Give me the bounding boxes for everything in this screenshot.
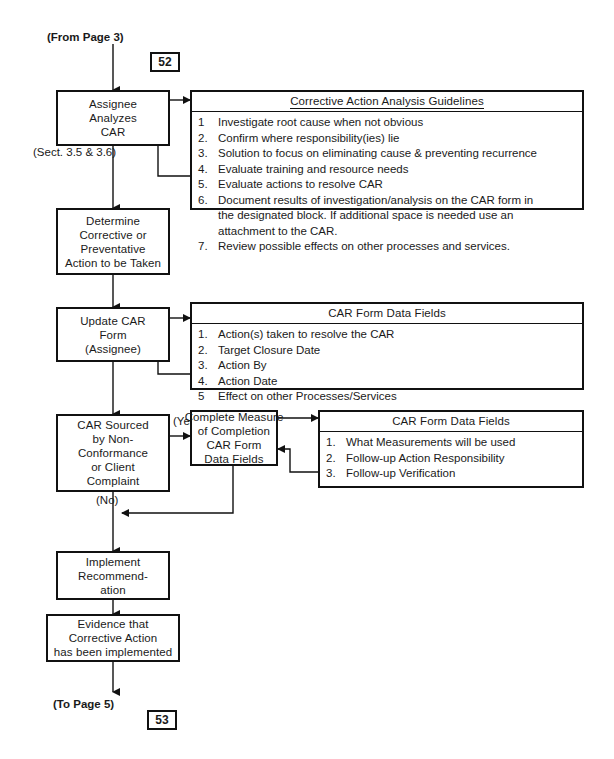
branch-label-no: (No) — [96, 493, 118, 507]
panel-title: CAR Form Data Fields — [320, 412, 582, 432]
flowchart-canvas: (From Page 3) 52 Assignee Analyzes CAR (… — [0, 0, 614, 759]
node-line: or Client — [91, 460, 135, 474]
node-line: Implement — [86, 555, 141, 569]
list-item-number: 2. — [198, 343, 218, 359]
node-line: (Assignee) — [85, 342, 141, 356]
list-item-text: Target Closure Date — [218, 343, 578, 359]
node-line: Determine — [86, 214, 140, 228]
node-line: CAR — [101, 125, 126, 139]
panel-car-form-data-fields-1: CAR Form Data Fields 1.Action(s) taken t… — [190, 302, 584, 390]
node-line: Conformance — [78, 446, 148, 460]
node-line: CAR Sourced — [77, 418, 148, 432]
list-item: 1Investigate root cause when not obvious — [192, 115, 582, 131]
list-item-text: Confirm where responsibility(ies) lie — [218, 131, 578, 147]
exit-label: (To Page 5) — [53, 697, 114, 711]
list-item-text: Evaluate training and resource needs — [218, 162, 578, 178]
list-item-number: 5 — [198, 389, 218, 405]
node-line: Evidence that — [78, 617, 149, 631]
node-line: Complaint — [87, 474, 140, 488]
list-item: 2.Follow-up Action Responsibility — [320, 451, 582, 467]
list-item: 4.Evaluate training and resource needs — [192, 162, 582, 178]
panel-title: CAR Form Data Fields — [192, 304, 582, 324]
list-item: 4.Action Date — [192, 374, 582, 390]
list-item-text: Action By — [218, 358, 578, 374]
list-item-number: 2. — [326, 451, 346, 467]
list-item: 3.Follow-up Verification — [320, 466, 582, 482]
node-assignee-analyzes-car[interactable]: Assignee Analyzes CAR — [56, 90, 170, 146]
node-determine-action[interactable]: Determine Corrective or Preventative Act… — [56, 208, 170, 275]
list-item-text: Effect on other Processes/Services — [218, 389, 578, 405]
page-marker-in: 52 — [150, 52, 180, 72]
list-item-number: 1. — [326, 435, 346, 451]
list-item-number: 3. — [326, 466, 346, 482]
entry-label: (From Page 3) — [47, 30, 124, 44]
node-update-car-form[interactable]: Update CAR Form (Assignee) — [56, 307, 170, 362]
panel-body: 1Investigate root cause when not obvious… — [192, 112, 582, 258]
list-item: 5Effect on other Processes/Services — [192, 389, 582, 405]
list-item-text: attachment to the CAR. — [218, 224, 578, 240]
list-item-number: 2. — [198, 131, 218, 147]
node-line: has been implemented — [54, 645, 172, 659]
node-line: ation — [100, 583, 125, 597]
assignee-section-caption: (Sect. 3.5 & 3.6) — [33, 145, 116, 159]
node-line: Data Fields — [204, 452, 263, 466]
list-item-continuation: the designated block. If additional spac… — [192, 208, 582, 224]
node-line: Preventative — [80, 242, 145, 256]
list-item-number: 5. — [198, 177, 218, 193]
list-item: 1.Action(s) taken to resolve the CAR — [192, 327, 582, 343]
panel-car-form-data-fields-2: CAR Form Data Fields 1.What Measurements… — [318, 410, 584, 488]
node-line: Action to be Taken — [65, 256, 161, 270]
node-line: CAR Form — [206, 438, 261, 452]
node-line: Assignee — [89, 97, 137, 111]
list-item-text: Follow-up Verification — [346, 466, 578, 482]
panel-body: 1.Action(s) taken to resolve the CAR 2.T… — [192, 324, 582, 408]
list-item-text: the designated block. If additional spac… — [218, 208, 578, 224]
node-complete-measure-of-completion[interactable]: Complete Measure of Completion CAR Form … — [190, 410, 278, 466]
node-line: Corrective Action — [69, 631, 158, 645]
list-item: 7.Review possible effects on other proce… — [192, 239, 582, 255]
list-item: 5.Evaluate actions to resolve CAR — [192, 177, 582, 193]
list-item-text: Action(s) taken to resolve the CAR — [218, 327, 578, 343]
list-item-text: Evaluate actions to resolve CAR — [218, 177, 578, 193]
list-item: 1.What Measurements will be used — [320, 435, 582, 451]
node-line: Analyzes — [89, 111, 136, 125]
list-item-text: Investigate root cause when not obvious — [218, 115, 578, 131]
list-item: 2.Confirm where responsibility(ies) lie — [192, 131, 582, 147]
list-item: 3.Action By — [192, 358, 582, 374]
list-item-text: Follow-up Action Responsibility — [346, 451, 578, 467]
node-line: Complete Measure — [185, 410, 284, 424]
list-item-number: 4. — [198, 162, 218, 178]
panel-body: 1.What Measurements will be used 2.Follo… — [320, 432, 582, 485]
panel-corrective-action-analysis-guidelines: Corrective Action Analysis Guidelines 1I… — [190, 90, 584, 210]
list-item-text: Document results of investigation/analys… — [218, 193, 578, 209]
node-line: Update CAR — [80, 314, 146, 328]
node-line: Recommend- — [78, 569, 148, 583]
list-item-text: What Measurements will be used — [346, 435, 578, 451]
list-item-text: Action Date — [218, 374, 578, 390]
list-item-number: 6. — [198, 193, 218, 209]
list-item-text: Solution to focus on eliminating cause &… — [218, 146, 578, 162]
list-item-number: 3. — [198, 146, 218, 162]
node-line: of Completion — [198, 424, 270, 438]
node-line: Form — [99, 328, 126, 342]
list-item: 3.Solution to focus on eliminating cause… — [192, 146, 582, 162]
list-item-number: 4. — [198, 374, 218, 390]
list-item: 2.Target Closure Date — [192, 343, 582, 359]
list-item-number: 1. — [198, 327, 218, 343]
panel-title-text: CAR Form Data Fields — [328, 307, 446, 319]
page-marker-out: 53 — [147, 710, 177, 730]
panel-title-text: Corrective Action Analysis Guidelines — [290, 95, 484, 109]
list-item: 6.Document results of investigation/anal… — [192, 193, 582, 209]
panel-title: Corrective Action Analysis Guidelines — [192, 92, 582, 112]
node-car-sourced[interactable]: CAR Sourced by Non- Conformance or Clien… — [56, 414, 170, 492]
list-item-text: Review possible effects on other process… — [218, 239, 578, 255]
node-implement-recommendation[interactable]: Implement Recommend- ation — [56, 551, 170, 600]
panel-title-text: CAR Form Data Fields — [392, 415, 510, 427]
node-evidence-implemented[interactable]: Evidence that Corrective Action has been… — [46, 614, 180, 662]
node-line: by Non- — [93, 432, 134, 446]
list-item-number: 7. — [198, 239, 218, 255]
node-line: Corrective or — [79, 228, 146, 242]
list-item-continuation: attachment to the CAR. — [192, 224, 582, 240]
list-item-number: 1 — [198, 115, 218, 131]
list-item-number: 3. — [198, 358, 218, 374]
